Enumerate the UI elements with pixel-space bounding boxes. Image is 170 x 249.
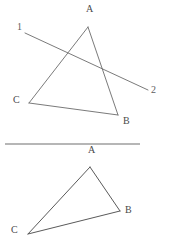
top-triangle-side-cb bbox=[29, 103, 118, 115]
bottom-triangle-side-cb bbox=[28, 211, 120, 234]
top-vertex-label-b: B bbox=[123, 116, 130, 126]
top-vertex-label-a: A bbox=[86, 4, 93, 14]
bottom-triangle-side-ac bbox=[28, 167, 90, 234]
bottom-triangle-group bbox=[28, 167, 120, 234]
geometry-figure-canvas: A B C 1 2 A B C bbox=[0, 0, 170, 249]
top-triangle-side-ac bbox=[29, 27, 88, 103]
bottom-vertex-label-b: B bbox=[125, 205, 132, 215]
top-triangle-side-ab bbox=[88, 27, 118, 115]
transversal-endpoint-label-2: 2 bbox=[151, 85, 156, 95]
bottom-vertex-label-c: C bbox=[11, 225, 18, 235]
top-vertex-label-c: C bbox=[13, 95, 20, 105]
transversal-endpoint-label-1: 1 bbox=[17, 22, 22, 32]
geometry-drawing bbox=[0, 0, 170, 249]
transversal-line-1-2 bbox=[25, 33, 148, 90]
bottom-vertex-label-a: A bbox=[88, 145, 95, 155]
top-triangle-group bbox=[29, 27, 118, 115]
bottom-triangle-side-ab bbox=[90, 167, 120, 211]
transversal-group bbox=[25, 33, 148, 90]
